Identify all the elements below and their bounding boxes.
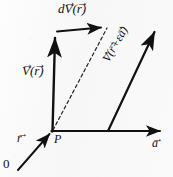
vector-arrow-accent-icon: → xyxy=(65,0,73,9)
vector-dv-arrow xyxy=(57,28,101,32)
vector-r-arrow xyxy=(18,134,50,170)
dashed-resultant-line xyxy=(53,28,107,130)
label-r-symbol: →r xyxy=(17,132,22,144)
vector-arrow-accent-icon: → xyxy=(22,59,30,71)
vector-v-at-r-arrow xyxy=(53,38,56,131)
vector-arrow-accent-icon: → xyxy=(152,133,158,144)
label-dv-arg-symbol: →r xyxy=(77,2,82,15)
vector-arrow-accent-icon: → xyxy=(34,59,39,71)
label-dv-vector-symbol: →V xyxy=(65,2,73,15)
label-a-symbol: →a xyxy=(152,137,158,149)
diagram-canvas xyxy=(0,0,173,177)
vector-arrow-accent-icon: → xyxy=(17,128,22,139)
label-point-p: P xyxy=(54,133,61,145)
label-a-vector: →a xyxy=(152,137,158,149)
label-origin: 0 xyxy=(3,157,10,170)
label-v-vector-symbol: →V xyxy=(22,64,30,77)
label-v-at-r: →V(→r) xyxy=(22,64,44,77)
label-dv: d→V(→r) xyxy=(58,2,86,15)
label-r-vector: →r xyxy=(17,132,22,144)
vector-arrow-accent-icon: → xyxy=(77,0,82,9)
label-v-arg-symbol: →r xyxy=(34,64,39,77)
vector-field-diagram: d→V(→r) →V(→r) →V(→r+ε→a) →r P →a 0 xyxy=(0,0,173,177)
